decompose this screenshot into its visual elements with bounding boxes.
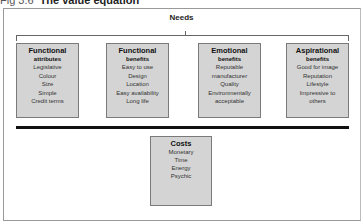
box-item: acceptable [199, 97, 260, 106]
box-aspirational-benefits: Aspirational benefits Good for image Rep… [286, 43, 349, 118]
box-item: Reputable [199, 63, 260, 72]
box-costs: Costs Monetary Time Energy Psychic [150, 136, 212, 206]
figure-number: Fig 3.6 [0, 0, 34, 6]
box-item: Time [151, 156, 211, 164]
box-subheading: benefits [107, 55, 168, 63]
box-heading: Functional [107, 46, 168, 55]
box-item: Reputation [287, 72, 348, 81]
box-item: Legislative [17, 63, 78, 72]
box-heading: Functional [17, 46, 78, 55]
box-item: others [287, 97, 348, 106]
balance-divider [16, 126, 349, 129]
box-item: manufacturer [199, 72, 260, 81]
box-functional-benefits: Functional benefits Easy to use Design L… [106, 43, 169, 118]
box-item: Quality [199, 80, 260, 89]
box-item: Monetary [151, 148, 211, 156]
box-item: Energy [151, 164, 211, 172]
figure-title: Fig 3.6The value equation [0, 0, 139, 6]
box-item: Lifestyle [287, 80, 348, 89]
box-item: Good for image [287, 63, 348, 72]
needs-bracket [16, 35, 349, 41]
box-heading: Costs [151, 139, 211, 148]
box-subheading: attributes [17, 55, 78, 63]
box-item: Design [107, 72, 168, 81]
box-item: Size [17, 80, 78, 89]
box-item: Impressive to [287, 89, 348, 98]
box-heading: Aspirational [287, 46, 348, 55]
box-functional-attributes: Functional attributes Legislative Colour… [16, 43, 79, 118]
box-heading: Emotional [199, 46, 260, 55]
box-item: Simple [17, 89, 78, 98]
box-item: Easy to use [107, 63, 168, 72]
box-item: Credit terms [17, 97, 78, 106]
needs-label: Needs [0, 13, 363, 22]
box-item: Environmentally [199, 89, 260, 98]
figure-title-text: The value equation [40, 0, 140, 6]
box-item: Easy availability [107, 89, 168, 98]
box-emotional-benefits: Emotional benefits Reputable manufacture… [198, 43, 261, 118]
box-item: Colour [17, 72, 78, 81]
box-item: Location [107, 80, 168, 89]
box-item: Psychic [151, 172, 211, 180]
box-subheading: benefits [199, 55, 260, 63]
box-subheading: benefits [287, 55, 348, 63]
box-item: Long life [107, 97, 168, 106]
